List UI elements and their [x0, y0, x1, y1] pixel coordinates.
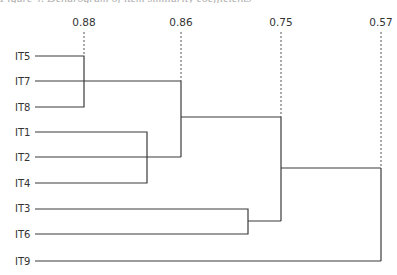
leaf-label-it6: IT6	[15, 229, 30, 240]
tick-label-0.88: 0.88	[72, 16, 95, 28]
branch-it3-it6	[35, 209, 248, 234]
leaf-label-it5: IT5	[15, 51, 30, 62]
leaf-labels: IT5 IT7 IT8 IT1 IT2 IT4 IT3 IT6 IT9	[15, 51, 30, 267]
leaf-label-it2: IT2	[15, 152, 30, 163]
tick-label-0.75: 0.75	[269, 16, 292, 28]
leaf-label-it9: IT9	[15, 256, 30, 267]
leaf-label-it3: IT3	[15, 203, 30, 214]
leaf-label-it1: IT1	[15, 127, 30, 138]
dendrogram: 0.88 0.86 0.75 0.57 IT5 IT7 IT8 IT1 IT2 …	[0, 0, 397, 275]
tick-label-0.86: 0.86	[169, 16, 193, 28]
branches	[35, 56, 381, 261]
tick-label-0.57: 0.57	[369, 16, 392, 28]
leaf-label-it8: IT8	[15, 102, 30, 113]
leaf-label-it7: IT7	[15, 76, 30, 87]
leaf-label-it4: IT4	[15, 178, 30, 189]
guide-lines	[84, 32, 381, 168]
similarity-axis: 0.88 0.86 0.75 0.57	[72, 16, 392, 28]
